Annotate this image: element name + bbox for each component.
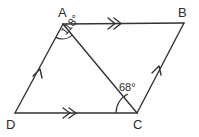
marker-CB-single-chevron [152, 66, 161, 75]
side-DA [15, 24, 63, 113]
side-BC [137, 23, 184, 113]
vertex-label-B: B [178, 6, 187, 19]
geometry-diagram-canvas: A B C D 118° 68° [0, 0, 199, 137]
diagonal-AC [63, 24, 137, 113]
vertex-label-D: D [6, 118, 15, 131]
angle-arc-C [116, 94, 128, 113]
angle-label-68: 68° [119, 82, 136, 93]
vertex-label-C: C [133, 118, 142, 131]
side-AB [63, 23, 184, 24]
parallelogram-figure [0, 0, 199, 137]
angle-arc-A [56, 35, 73, 39]
vertex-label-A: A [58, 6, 67, 19]
